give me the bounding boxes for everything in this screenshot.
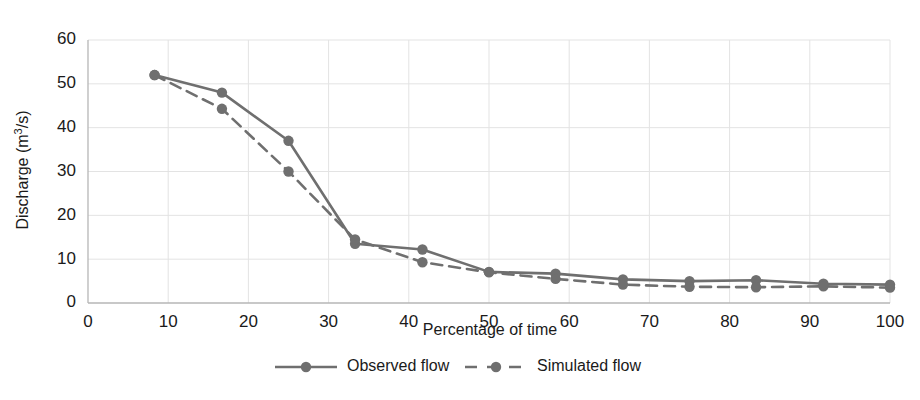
legend-label: Observed flow xyxy=(347,357,450,374)
data-point-marker xyxy=(818,281,828,291)
data-point-marker xyxy=(618,279,628,289)
x-axis-tick-label: 100 xyxy=(876,312,904,331)
data-point-marker xyxy=(751,282,761,292)
legend-marker-swatch xyxy=(301,362,311,372)
x-axis-tick-label: 10 xyxy=(159,312,178,331)
flow-duration-curve-chart: 0102030405060 0102030405060708090100 Per… xyxy=(0,0,920,400)
y-axis-title: Discharge (m3/s) xyxy=(12,110,31,229)
x-axis-tick-label: 30 xyxy=(319,312,338,331)
x-axis-tick-label: 40 xyxy=(399,312,418,331)
x-axis-tick-label: 70 xyxy=(640,312,659,331)
data-point-marker xyxy=(149,70,159,80)
chart-background xyxy=(0,0,920,400)
chart-container: 0102030405060 0102030405060708090100 Per… xyxy=(0,0,920,400)
legend-label: Simulated flow xyxy=(537,357,641,374)
data-point-marker xyxy=(350,234,360,244)
x-axis-tick-label: 80 xyxy=(720,312,739,331)
y-axis-tick-label: 50 xyxy=(57,73,76,92)
y-axis-tick-label: 60 xyxy=(57,29,76,48)
y-axis-tick-label: 20 xyxy=(57,205,76,224)
y-axis-title-main: Discharge (m xyxy=(14,134,31,229)
data-point-marker xyxy=(283,166,293,176)
x-axis-tick-label: 60 xyxy=(560,312,579,331)
data-point-marker xyxy=(417,244,427,254)
y-axis-tick-label: 10 xyxy=(57,249,76,268)
data-point-marker xyxy=(684,282,694,292)
y-axis-tick-label: 0 xyxy=(67,292,76,311)
y-axis-title-tail: /s) xyxy=(14,110,31,128)
data-point-marker xyxy=(885,282,895,292)
x-axis-title: Percentage of time xyxy=(423,321,557,338)
y-axis-tick-label: 30 xyxy=(57,161,76,180)
data-point-marker xyxy=(217,104,227,114)
legend-marker-swatch xyxy=(491,362,501,372)
data-point-marker xyxy=(217,87,227,97)
data-point-marker xyxy=(484,267,494,277)
x-axis-tick-label: 0 xyxy=(83,312,92,331)
data-point-marker xyxy=(417,257,427,267)
data-point-marker xyxy=(550,274,560,284)
data-point-marker xyxy=(283,136,293,146)
x-axis-tick-label: 90 xyxy=(800,312,819,331)
y-axis-tick-label: 40 xyxy=(57,117,76,136)
x-axis-tick-label: 20 xyxy=(239,312,258,331)
